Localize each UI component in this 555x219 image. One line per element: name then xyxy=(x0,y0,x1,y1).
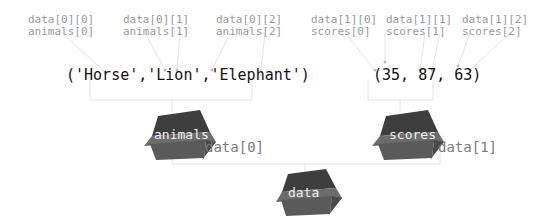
ref-label-data-0: data[0] xyxy=(205,139,264,155)
index-name-path: animals[2] xyxy=(216,26,282,38)
index-label-scores-1: data[1][1] scores[1] xyxy=(386,14,452,38)
index-label-scores-0: data[1][0] scores[0] xyxy=(311,14,377,38)
scores-tuple: (35, 87, 63) xyxy=(373,66,481,84)
index-name-path: animals[0] xyxy=(28,26,94,38)
index-label-animals-0: data[0][0] animals[0] xyxy=(28,14,94,38)
ref-label-data-1: data[1] xyxy=(438,139,497,155)
box-label-scores: scores xyxy=(389,127,436,142)
index-name-path: scores[1] xyxy=(386,26,452,38)
animals-tuple: ('Horse','Lion','Elephant') xyxy=(66,66,310,84)
box-label-animals: animals xyxy=(154,127,209,142)
index-label-animals-1: data[0][1] animals[1] xyxy=(123,14,189,38)
index-label-scores-2: data[1][2] scores[2] xyxy=(462,14,528,38)
index-label-animals-2: data[0][2] animals[2] xyxy=(216,14,282,38)
index-name-path: scores[0] xyxy=(311,26,377,38)
box-label-data: data xyxy=(288,185,319,200)
index-name-path: scores[2] xyxy=(462,26,528,38)
index-name-path: animals[1] xyxy=(123,26,189,38)
